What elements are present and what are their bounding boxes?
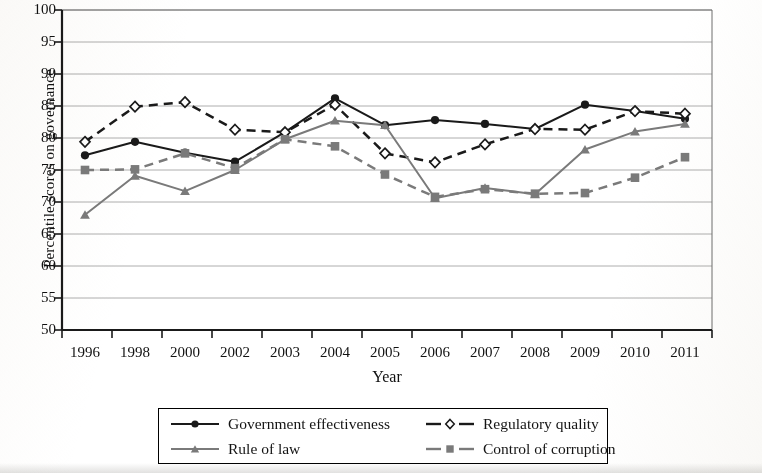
scan-edge-shadow [0, 463, 762, 473]
x-tick-label: 2003 [261, 344, 309, 361]
x-tick-label: 2005 [361, 344, 409, 361]
x-tick-label: 2004 [311, 344, 359, 361]
data-point-marker [130, 101, 140, 111]
legend-item-rule-of-law[interactable]: Rule of law [169, 441, 424, 457]
chart-legend: Government effectiveness Regulatory qual… [158, 408, 608, 464]
x-tick-label: 2011 [661, 344, 709, 361]
legend-sample-government-effectiveness [169, 417, 221, 431]
x-tick-label: 2008 [511, 344, 559, 361]
data-point-marker [581, 189, 590, 198]
data-point-marker [331, 142, 340, 151]
legend-sample-rule-of-law [169, 442, 221, 456]
data-point-marker [231, 164, 240, 173]
x-tick-label: 2009 [561, 344, 609, 361]
data-point-marker [531, 189, 540, 198]
legend-item-control-of-corruption[interactable]: Control of corruption [424, 441, 616, 457]
data-point-marker [681, 153, 690, 162]
data-point-marker [381, 170, 390, 179]
x-tick-label: 2000 [161, 344, 209, 361]
x-axis-title: Year [62, 368, 712, 386]
legend-item-regulatory-quality[interactable]: Regulatory quality [424, 416, 616, 432]
data-point-marker [530, 124, 540, 134]
x-tick-label: 2006 [411, 344, 459, 361]
legend-item-government-effectiveness[interactable]: Government effectiveness [169, 416, 424, 432]
x-axis-tick-labels: 1996199820002002200320042005200620072008… [0, 336, 762, 362]
data-point-marker [430, 157, 440, 167]
data-point-marker [631, 173, 640, 182]
x-tick-label: 1998 [111, 344, 159, 361]
data-point-marker [380, 148, 390, 158]
x-tick-label: 2010 [611, 344, 659, 361]
data-point-marker [431, 116, 439, 124]
data-series-layer [80, 94, 690, 218]
data-point-marker [281, 135, 290, 144]
legend-sample-regulatory-quality [424, 417, 476, 431]
data-point-marker [630, 106, 640, 116]
x-tick-label: 2002 [211, 344, 259, 361]
data-point-marker [131, 138, 139, 146]
legend-label-rule-of-law: Rule of law [228, 441, 300, 457]
data-point-marker [181, 149, 190, 158]
x-tick-label: 1996 [61, 344, 109, 361]
data-point-marker [481, 185, 490, 194]
data-point-marker [81, 166, 90, 175]
series-rule-of-law [80, 116, 690, 219]
legend-label-control-of-corruption: Control of corruption [483, 441, 616, 457]
data-point-marker [230, 124, 240, 134]
data-point-marker [581, 101, 589, 109]
legend-label-regulatory-quality: Regulatory quality [483, 416, 599, 432]
data-point-marker [481, 120, 489, 128]
legend-label-government-effectiveness: Government effectiveness [228, 416, 390, 432]
data-point-marker [580, 124, 590, 134]
data-point-marker [431, 193, 440, 202]
data-point-marker [131, 165, 140, 174]
legend-sample-control-of-corruption [424, 442, 476, 456]
data-point-marker [480, 139, 490, 149]
data-point-marker [81, 151, 89, 159]
series-regulatory-quality [80, 97, 690, 168]
governance-line-chart-figure: Percentile scores on governance 10095908… [0, 0, 762, 473]
x-tick-label: 2007 [461, 344, 509, 361]
